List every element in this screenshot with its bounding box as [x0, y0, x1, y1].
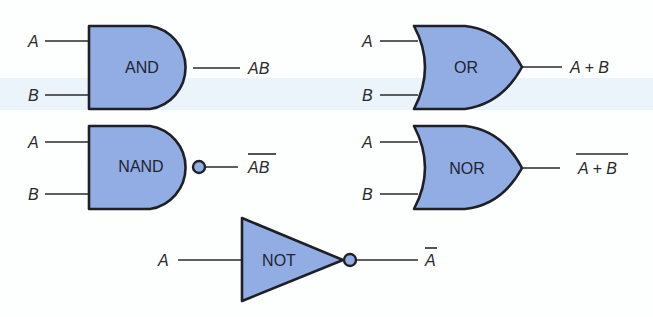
logic-gates-diagram: A B AND AB A B OR A + B A B NAND AB A B: [0, 0, 653, 317]
nand-input-a-label: A: [27, 134, 39, 151]
nand-inversion-bubble: [193, 161, 205, 173]
and-input-a-label: A: [27, 33, 39, 50]
or-input-b-label: B: [362, 87, 373, 104]
not-input-a-label: A: [157, 252, 169, 269]
nor-gate: A B NOR A + B: [361, 126, 628, 209]
or-gate-label: OR: [454, 59, 478, 76]
not-inversion-bubble: [344, 254, 356, 266]
not-gate-label: NOT: [262, 252, 296, 269]
nor-input-a-label: A: [361, 134, 373, 151]
nand-gate-label: NAND: [118, 158, 163, 175]
nor-gate-label: NOR: [449, 160, 485, 177]
and-gate-label: AND: [125, 59, 159, 76]
nand-gate: A B NAND AB: [27, 126, 276, 209]
not-output-label: A: [424, 252, 436, 269]
nand-input-b-label: B: [28, 186, 39, 203]
nor-input-b-label: B: [362, 186, 373, 203]
and-input-b-label: B: [28, 87, 39, 104]
or-input-a-label: A: [361, 33, 373, 50]
nor-output-label: A + B: [577, 160, 617, 177]
not-gate: A NOT A: [157, 218, 437, 301]
or-output-label: A + B: [569, 59, 609, 76]
nand-output-label: AB: [247, 159, 270, 176]
or-gate: A B OR A + B: [361, 26, 609, 109]
and-output-label: AB: [247, 60, 270, 77]
and-gate: A B AND AB: [27, 26, 270, 109]
